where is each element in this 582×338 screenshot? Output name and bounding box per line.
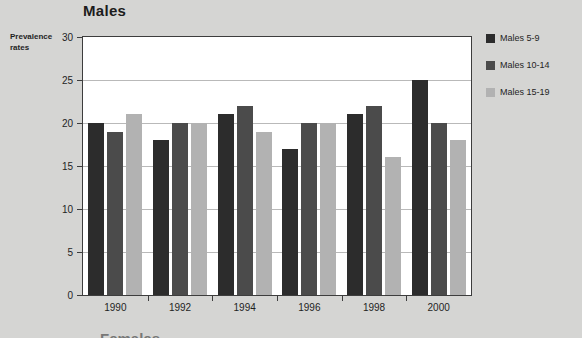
legend-label: Males 15-19 [500, 87, 550, 97]
x-axis-tick-label: 1998 [344, 302, 404, 313]
bar[interactable] [153, 140, 169, 295]
y-axis-tick-mark [77, 209, 82, 210]
bar[interactable] [320, 123, 336, 295]
bar-group [153, 37, 207, 295]
bar[interactable] [282, 149, 298, 295]
y-axis-tick-label: 30 [51, 32, 73, 43]
chart-legend: Males 5-9Males 10-14Males 15-19 [486, 33, 550, 114]
legend-item[interactable]: Males 15-19 [486, 87, 550, 97]
bar-group [218, 37, 272, 295]
x-axis-tick-label: 1994 [215, 302, 275, 313]
bar[interactable] [237, 106, 253, 295]
x-axis-tick-label: 1992 [150, 302, 210, 313]
legend-label: Males 10-14 [500, 60, 550, 70]
x-axis-tick-label: 1990 [85, 302, 145, 313]
legend-item[interactable]: Males 10-14 [486, 60, 550, 70]
y-axis-tick-mark [77, 295, 82, 296]
x-axis-tick-mark [148, 296, 149, 301]
x-axis-tick-mark [212, 296, 213, 301]
chart-container: Males Prevalence rates 051015202530 1990… [0, 0, 582, 338]
y-axis-tick-label: 25 [51, 75, 73, 86]
bar-group [347, 37, 401, 295]
bar[interactable] [301, 123, 317, 295]
y-axis-tick-mark [77, 80, 82, 81]
y-axis-tick-mark [77, 123, 82, 124]
bar[interactable] [191, 123, 207, 295]
x-axis-tick-label: 1996 [279, 302, 339, 313]
bar[interactable] [218, 114, 234, 295]
bar[interactable] [366, 106, 382, 295]
legend-label: Males 5-9 [500, 33, 540, 43]
bar-group [412, 37, 466, 295]
bar[interactable] [126, 114, 142, 295]
bar[interactable] [450, 140, 466, 295]
bar[interactable] [385, 157, 401, 295]
y-axis-label-line-2: rates [10, 42, 70, 53]
y-axis-tick-label: 5 [51, 247, 73, 258]
y-axis-tick-mark [77, 166, 82, 167]
legend-swatch [486, 34, 495, 43]
legend-swatch [486, 88, 495, 97]
x-axis-tick-mark [406, 296, 407, 301]
y-axis-tick-label: 15 [51, 161, 73, 172]
bar[interactable] [256, 132, 272, 295]
bar-group [88, 37, 142, 295]
bar[interactable] [431, 123, 447, 295]
x-axis-tick-mark [277, 296, 278, 301]
bar[interactable] [347, 114, 363, 295]
bar-group [282, 37, 336, 295]
bar[interactable] [412, 80, 428, 295]
bar[interactable] [107, 132, 123, 295]
y-axis-tick-mark [77, 37, 82, 38]
bar[interactable] [88, 123, 104, 295]
y-axis-tick-label: 10 [51, 204, 73, 215]
next-chart-title-partial: Females [100, 330, 160, 338]
y-axis-tick-label: 0 [51, 290, 73, 301]
chart-title: Males [83, 2, 126, 19]
y-axis-tick-label: 20 [51, 118, 73, 129]
bar[interactable] [172, 123, 188, 295]
legend-item[interactable]: Males 5-9 [486, 33, 550, 43]
y-axis-tick-mark [77, 252, 82, 253]
legend-swatch [486, 61, 495, 70]
x-axis-tick-label: 2000 [409, 302, 469, 313]
x-axis-tick-mark [342, 296, 343, 301]
bars-layer [83, 37, 471, 295]
